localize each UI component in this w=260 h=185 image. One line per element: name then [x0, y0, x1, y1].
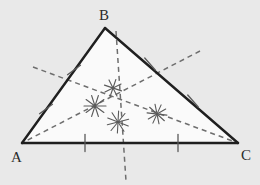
vertex-label-c: C — [241, 148, 251, 163]
geometry-figure: A B C — [0, 0, 260, 185]
triangle-construction-canvas — [0, 0, 260, 185]
vertex-label-b: B — [99, 8, 109, 23]
vertex-label-a: A — [11, 150, 22, 165]
